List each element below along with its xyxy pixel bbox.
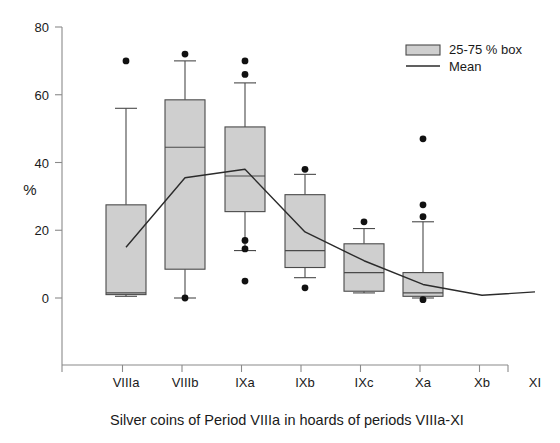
x-tick-label-viiib: VIIIb — [172, 375, 199, 390]
outlier-point — [420, 135, 427, 142]
legend-swatch-box — [406, 45, 440, 55]
box-iqr — [344, 244, 384, 291]
y-tick-label-0: 0 — [42, 291, 49, 306]
outlier-point — [361, 218, 368, 225]
x-tick-label-xb: Xb — [474, 375, 490, 390]
outlier-point — [420, 201, 427, 208]
x-tick-label-ixc: IXc — [355, 375, 374, 390]
legend-label-box: 25-75 % box — [449, 42, 522, 57]
box-iqr — [106, 205, 146, 295]
outlier-point — [302, 284, 309, 291]
y-tick-label-60: 60 — [35, 88, 49, 103]
outlier-point — [420, 213, 427, 220]
outlier-point — [242, 57, 249, 64]
outlier-point — [242, 71, 249, 78]
x-tick-label-xa: Xa — [415, 375, 432, 390]
box-iqr — [165, 100, 205, 269]
y-tick-label-80: 80 — [35, 20, 49, 35]
y-axis-title: % — [23, 181, 36, 198]
y-tick-label-40: 40 — [35, 156, 49, 171]
outlier-point — [242, 278, 249, 285]
y-tick-label-20: 20 — [35, 223, 49, 238]
outlier-point — [420, 296, 427, 303]
boxplot-figure: 80 60 40 20 0 % VIIIa VIIIb IXa IXb IXc … — [0, 0, 560, 443]
x-tick-label-ixb: IXb — [295, 375, 315, 390]
outlier-point — [302, 166, 309, 173]
outlier-point — [182, 51, 189, 58]
legend-label-mean: Mean — [449, 59, 482, 74]
outlier-point — [182, 295, 189, 302]
x-tick-label-ixa: IXa — [235, 375, 255, 390]
x-tick-label-viiia: VIIIa — [113, 375, 141, 390]
outlier-point — [242, 237, 249, 244]
figure-caption: Silver coins of Period VIIIa in hoards o… — [110, 412, 464, 428]
outlier-point — [242, 245, 249, 252]
x-tick-label-xi: XI — [529, 375, 541, 390]
chart-canvas: 80 60 40 20 0 % VIIIa VIIIb IXa IXb IXc … — [0, 0, 560, 443]
outlier-point — [123, 57, 130, 64]
